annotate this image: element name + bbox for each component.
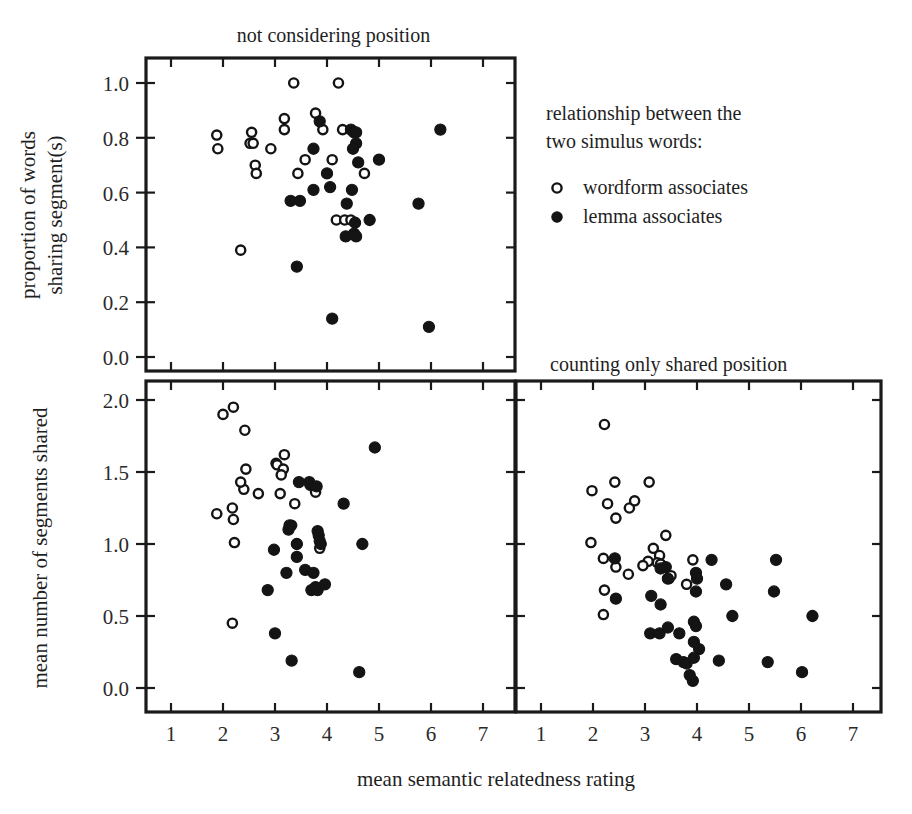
panel-bottom-left-xticklabel: 6 (426, 722, 437, 746)
panel-bottom-left-yticklabel: 0.0 (103, 677, 129, 701)
data-point (268, 544, 279, 555)
data-point (341, 198, 352, 209)
panel-top-left-yticklabel: 0.2 (103, 291, 129, 315)
data-point (289, 78, 298, 87)
panel-top-left-series-lemma (285, 116, 446, 333)
data-point (236, 477, 245, 486)
data-point (291, 261, 302, 272)
data-point (369, 442, 380, 453)
data-point (706, 554, 717, 565)
data-point (321, 168, 332, 179)
data-point (213, 144, 222, 153)
data-point (360, 169, 369, 178)
filled-circle-icon (552, 212, 562, 222)
panel-bottom-right-xticklabel: 5 (744, 722, 755, 746)
data-point (600, 585, 609, 594)
data-point (624, 570, 633, 579)
data-point (807, 610, 818, 621)
open-circle-icon (552, 183, 561, 192)
data-point (315, 538, 326, 549)
panel-bottom-left-xticklabel: 4 (322, 722, 333, 746)
data-point (269, 628, 280, 639)
data-point (293, 476, 304, 487)
legend-heading-line2: two simulus words: (546, 130, 703, 152)
data-point (252, 169, 261, 178)
panel-bottom-right-title: counting only shared position (550, 353, 787, 376)
panel-bottom-left-yticklabel: 0.5 (103, 605, 129, 629)
data-point (281, 567, 292, 578)
panel-bottom-left-xticklabel: 2 (218, 722, 229, 746)
panel-bottom-left-yticklabel: 1.0 (103, 533, 129, 557)
data-point (727, 610, 738, 621)
legend-heading-line1: relationship between the (546, 102, 742, 125)
scatter-figure: not considering positioncounting only sh… (0, 0, 912, 814)
data-point (351, 127, 362, 138)
panel-bottom-left-yticklabel: 2.0 (103, 389, 129, 413)
data-point (293, 169, 302, 178)
data-point (284, 520, 295, 531)
x-axis-title: mean semantic relatedness rating (357, 767, 636, 791)
panel-top-left-yticklabel: 0.8 (103, 127, 129, 151)
data-point (435, 124, 446, 135)
data-point (768, 586, 779, 597)
y-axis-title-top-line1: proportion of words (16, 131, 40, 299)
data-point (646, 590, 657, 601)
data-point (423, 321, 434, 332)
data-point (328, 155, 337, 164)
data-point (218, 410, 227, 419)
data-point (690, 620, 701, 631)
panel-bottom-right (516, 381, 881, 712)
data-point (236, 246, 245, 255)
panel-bottom-left-xticklabel: 5 (374, 722, 385, 746)
data-point (277, 470, 286, 479)
data-point (249, 139, 258, 148)
data-point (611, 513, 620, 522)
data-point (338, 498, 349, 509)
data-point (229, 403, 238, 412)
data-point (599, 610, 608, 619)
panel-bottom-right-xticklabel: 4 (692, 722, 703, 746)
data-point (687, 675, 698, 686)
panel-bottom-left-frame (146, 381, 515, 712)
data-point (308, 567, 319, 578)
panel-bottom-left-yticklabel: 1.5 (103, 461, 129, 485)
data-point (228, 619, 237, 628)
data-point (661, 531, 670, 540)
data-point (266, 144, 275, 153)
data-point (212, 130, 221, 139)
data-point (655, 599, 666, 610)
panel-bottom-right-xticklabel: 7 (848, 722, 859, 746)
data-point (682, 580, 691, 589)
data-point (280, 450, 289, 459)
data-point (721, 579, 732, 590)
data-point (674, 628, 685, 639)
data-point (325, 182, 336, 193)
data-point (212, 509, 221, 518)
panel-bottom-right-xticklabel: 3 (640, 722, 651, 746)
y-axis-title-bottom: mean number of segments shared (28, 407, 52, 689)
panel-top-left-yticklabel: 1.0 (103, 72, 129, 96)
data-point (314, 116, 325, 127)
data-point (351, 231, 362, 242)
data-point (354, 667, 365, 678)
data-point (280, 114, 289, 123)
data-point (229, 515, 238, 524)
legend-label-wordform: wordform associates (583, 176, 748, 198)
data-point (599, 554, 608, 563)
data-point (311, 481, 322, 492)
data-point (247, 128, 256, 137)
data-point (364, 214, 375, 225)
data-point (346, 184, 357, 195)
data-point (610, 477, 619, 486)
data-point (347, 143, 358, 154)
data-point (353, 157, 364, 168)
panel-bottom-left-xticklabel: 3 (270, 722, 281, 746)
panel-top-left (136, 58, 515, 371)
panel-top-left-title: not considering position (237, 24, 430, 47)
data-point (327, 313, 338, 324)
data-point (762, 656, 773, 667)
panel-top-left-series-wordform (212, 78, 369, 254)
panel-bottom-right-frame (516, 381, 881, 712)
panel-bottom-right-xticklabel: 6 (796, 722, 807, 746)
panel-top-left-yticklabel: 0.6 (103, 182, 129, 206)
